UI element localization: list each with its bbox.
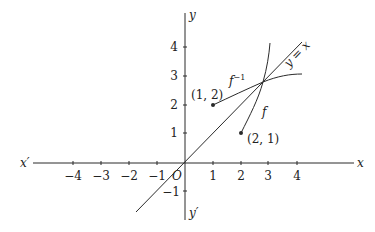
point-1-2-label: (1, 2) bbox=[191, 88, 223, 102]
x-tick-label: −1 bbox=[148, 169, 166, 183]
point-2-1 bbox=[239, 131, 243, 135]
f-inverse-superscript: −1 bbox=[233, 73, 245, 82]
x-prime-axis-label: x′ bbox=[20, 156, 30, 170]
x-axis-label: x bbox=[357, 156, 364, 170]
f-curve bbox=[241, 43, 270, 133]
origin-label: O bbox=[172, 169, 182, 183]
x-tick-label: 3 bbox=[264, 169, 272, 183]
y-tick-label: −1 bbox=[162, 185, 180, 199]
y-tick-label: 3 bbox=[170, 69, 178, 83]
function-inverse-diagram: −4 −3 −2 −1 1 2 3 4 4 3 2 1 −1 x x′ y y′… bbox=[0, 0, 375, 232]
y-axis-label: y bbox=[188, 8, 196, 22]
x-tick-label: −4 bbox=[64, 169, 82, 183]
identity-line-label: y = x bbox=[280, 38, 313, 71]
y-tick-label: 4 bbox=[170, 40, 178, 54]
f-inverse-curve-label: f−1 bbox=[228, 73, 245, 88]
x-tick-label: 4 bbox=[293, 169, 301, 183]
y-tick-label: 2 bbox=[170, 98, 178, 112]
point-1-2 bbox=[211, 103, 215, 107]
x-tick-label: 2 bbox=[237, 169, 245, 183]
point-2-1-label: (2, 1) bbox=[247, 132, 279, 146]
x-tick-label: −2 bbox=[120, 169, 138, 183]
identity-line bbox=[136, 42, 302, 212]
f-inverse-curve bbox=[213, 74, 302, 105]
x-tick-label: 1 bbox=[209, 169, 217, 183]
f-curve-label: f bbox=[261, 105, 269, 119]
y-prime-axis-label: y′ bbox=[188, 206, 199, 220]
y-tick-label: 1 bbox=[170, 126, 178, 140]
x-tick-label: −3 bbox=[92, 169, 110, 183]
